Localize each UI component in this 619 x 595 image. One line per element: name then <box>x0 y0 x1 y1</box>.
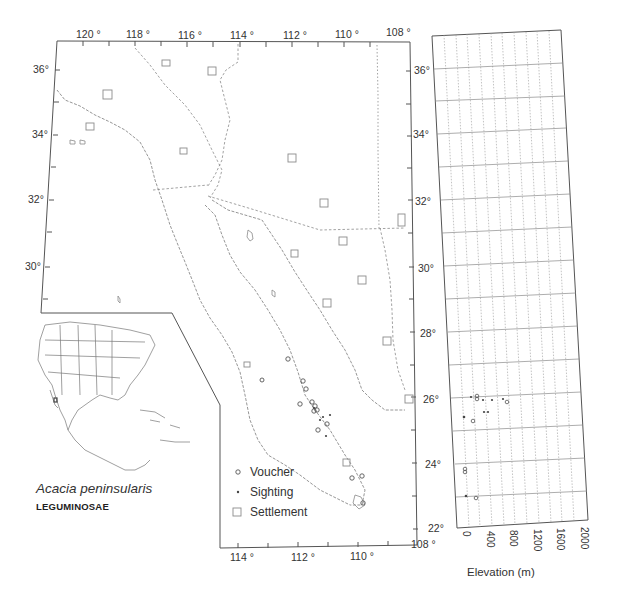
elev-tick-1200: 1200 <box>532 529 543 551</box>
lon-label-bottom-114: 114 ° <box>230 551 254 563</box>
species-name: Acacia peninsularis <box>36 481 152 496</box>
lat-label-right-24: 24° <box>425 458 441 470</box>
lon-label-top-114: 114 ° <box>230 29 254 41</box>
legend-label-settlement: Settlement <box>250 505 307 519</box>
elevation-grid-vertical <box>444 31 574 527</box>
elevation-axis-label: Elevation (m) <box>467 566 535 578</box>
lon-label-top-108: 108 ° <box>386 26 411 38</box>
lon-label-top-112: 112 ° <box>283 29 307 41</box>
legend-label-voucher: Voucher <box>250 465 294 479</box>
elevation-sighting-points <box>463 396 504 497</box>
lon-label-bottom-110: 110 ° <box>350 550 374 562</box>
gulf-islands <box>70 140 365 509</box>
elev-tick-0: 0 <box>461 531 472 537</box>
legend-item-voucher: Voucher <box>234 465 294 479</box>
lat-label-right-22: 22° <box>428 522 444 534</box>
lat-label-right-28: 28° <box>420 327 436 339</box>
lat-label-right-26: 26° <box>423 393 439 405</box>
lat-label-right-30: 30° <box>418 262 434 274</box>
inset-map <box>38 322 190 470</box>
inset-range-marker <box>54 398 57 402</box>
elev-tick-2000: 2000 <box>579 527 590 549</box>
lat-label-right-32: 32° <box>415 195 431 207</box>
family-name: LEGUMINOSAE <box>36 501 109 512</box>
elevation-panel-frame <box>432 30 588 528</box>
settlement-square-icon <box>232 507 242 517</box>
elev-tick-400: 400 <box>485 531 496 548</box>
lon-label-top-120: 120 ° <box>76 28 101 40</box>
lon-label-bottom-112: 112 ° <box>291 551 315 563</box>
lat-label-right-36: 36° <box>414 64 430 76</box>
state-borders <box>135 44 405 390</box>
legend-item-sighting: Sighting <box>234 485 293 499</box>
lon-label-top-116: 116 ° <box>178 29 202 41</box>
elev-tick-1600: 1600 <box>555 528 566 550</box>
lat-label-left-36: 36° <box>33 63 49 75</box>
left-axis-ticks <box>43 70 60 299</box>
lat-label-right-34: 34° <box>413 128 429 140</box>
lat-label-left-34: 34° <box>32 128 48 140</box>
lon-label-top-118: 118 ° <box>126 28 150 40</box>
lat-label-left-32: 32° <box>28 193 44 205</box>
sighting-dot-icon <box>234 488 242 496</box>
elev-tick-800: 800 <box>508 530 519 547</box>
lon-label-bottom-108: 108 ° <box>411 538 436 550</box>
coastlines <box>57 90 405 505</box>
legend-item-settlement: Settlement <box>232 505 307 519</box>
voucher-points <box>260 357 365 505</box>
voucher-circle-icon <box>234 468 242 476</box>
settlements <box>86 60 413 466</box>
lon-label-top-110: 110 ° <box>335 28 359 40</box>
legend-label-sighting: Sighting <box>250 485 293 499</box>
lat-label-left-30: 30° <box>25 260 41 272</box>
